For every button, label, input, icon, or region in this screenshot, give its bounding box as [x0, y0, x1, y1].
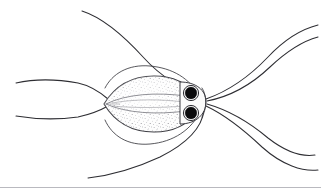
- upper-eye-icon: [185, 87, 197, 99]
- leg-right-lower-inner-path: [207, 104, 315, 155]
- figure-root: Line drawing of a microscopic aquatic cr…: [0, 0, 321, 196]
- leg-right-upper-outer-path: [206, 25, 318, 99]
- plate-baseline-rule: [0, 187, 321, 188]
- antenna-left-lower-path: [16, 106, 108, 119]
- lower-eye-icon: [185, 107, 197, 119]
- organism-illustration: [0, 0, 321, 196]
- leg-right-lower-outer-path: [206, 106, 318, 170]
- antenna-left-upper-path: [16, 80, 108, 99]
